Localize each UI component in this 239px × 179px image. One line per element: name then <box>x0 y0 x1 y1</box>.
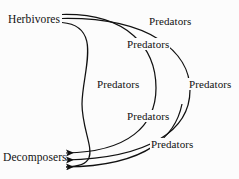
node-decomposers: Decomposers <box>3 151 67 163</box>
arc-outer <box>62 23 90 168</box>
stage-predators-2: Predators <box>126 38 170 50</box>
stage-predators-5: Predators <box>126 110 170 122</box>
node-herbivores: Herbivores <box>8 13 60 25</box>
stage-predators-1: Predators <box>148 15 192 27</box>
stage-predators-4: Predators <box>188 78 232 90</box>
food-chain-diagram: Herbivores Decomposers Predators Predato… <box>0 0 239 179</box>
stage-predators-6: Predators <box>150 138 194 150</box>
stage-predators-3: Predators <box>96 78 140 90</box>
